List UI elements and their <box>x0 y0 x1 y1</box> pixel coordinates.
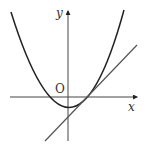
y-axis-label: y <box>55 6 63 20</box>
coordinate-graph: y x O <box>0 0 145 150</box>
origin-label: O <box>55 82 65 96</box>
x-axis-label: x <box>128 100 135 114</box>
